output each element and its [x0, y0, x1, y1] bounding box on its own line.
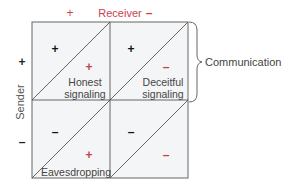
communication-label: Communication — [205, 56, 281, 68]
cell-label-line1: Honest — [68, 76, 101, 88]
sender-minus: – — [19, 135, 26, 149]
receiver-sign: – — [163, 148, 170, 162]
payoff-matrix-diagram: + Receiver – + – Sender + + Honest signa… — [0, 0, 294, 195]
receiver-sign: + — [85, 60, 92, 74]
cell-label-line2: signaling — [64, 88, 106, 100]
cell-label-line1: Deceitful — [143, 76, 184, 88]
cell-label-line1: Eavesdropping — [41, 166, 111, 178]
receiver-sign: – — [163, 60, 170, 74]
receiver-label: Receiver — [98, 7, 142, 19]
sender-label: Sender — [14, 84, 26, 120]
sender-sign: + — [127, 42, 134, 56]
sender-sign: – — [52, 125, 59, 139]
receiver-sign: + — [85, 148, 92, 162]
sender-sign: – — [128, 125, 135, 139]
receiver-minus: – — [146, 6, 153, 20]
cell-label-line2: signaling — [142, 88, 184, 100]
communication-bracket — [189, 22, 202, 102]
receiver-plus: + — [66, 6, 73, 20]
sender-plus: + — [18, 55, 25, 69]
sender-sign: + — [51, 42, 58, 56]
